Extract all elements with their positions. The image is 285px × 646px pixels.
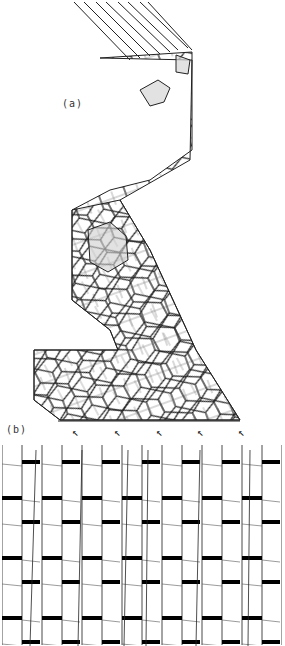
arrow-icon: ↖ <box>238 426 245 439</box>
arrow-icon: ↖ <box>72 426 79 439</box>
arrow-icon: ↖ <box>156 426 163 439</box>
panel-b-label: (b) <box>6 424 27 435</box>
arrow-icon: ↖ <box>114 426 121 439</box>
panel-a <box>34 2 240 421</box>
arrow-icon: ↖ <box>197 426 204 439</box>
figure-drawing <box>0 0 285 646</box>
panel-a-label: (a) <box>62 98 83 109</box>
panel-b <box>2 445 282 646</box>
